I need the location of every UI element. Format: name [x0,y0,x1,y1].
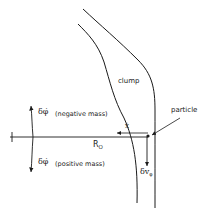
particle-pointer [152,118,180,135]
delta-phi-down-arrow [31,137,33,172]
clump-label: clump [118,78,140,85]
delta-phi-neg-symbol: δφ̇ [38,108,48,116]
delta-phi-up-arrow [31,106,33,137]
particle-label: particle [171,107,197,114]
delta-v-subscript: φ [149,171,152,177]
diagram-canvas: clump particle δφ̇ (negative mass) δφ̇ (… [0,0,212,213]
positive-mass-label: (positive mass) [55,161,105,168]
negative-mass-label: (negative mass) [55,111,108,118]
delta-phi-pos-symbol: δφ̇ [38,158,48,166]
delta-v-symbol: δv [140,167,149,176]
delta-v-label: δvφ [140,168,153,177]
r0-subscript: O [99,144,103,150]
x-dot-label: ẋ [125,123,129,130]
r0-label: RO [93,141,103,151]
